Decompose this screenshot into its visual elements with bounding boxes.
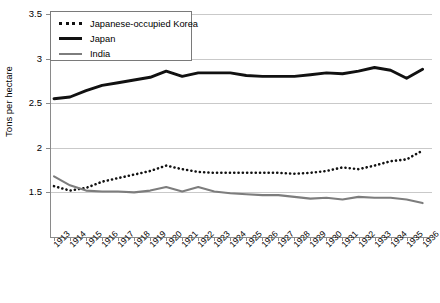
thick-black-line-swatch	[58, 33, 83, 44]
legend-label-japan: Japan	[90, 34, 115, 44]
series-line	[54, 151, 423, 191]
legend-item-japan: Japan	[58, 32, 191, 45]
line-chart: 1.522.533.5 Tons per hectare 19131914191…	[0, 0, 440, 303]
dotted-line-swatch	[58, 18, 83, 29]
chart-legend: Japanese-occupied Korea Japan India	[50, 11, 192, 61]
legend-item-korea: Japanese-occupied Korea	[58, 17, 191, 30]
legend-item-india: India	[58, 47, 191, 60]
gray-line-swatch	[58, 48, 83, 59]
legend-label-korea: Japanese-occupied Korea	[90, 19, 198, 29]
series-line	[54, 68, 423, 99]
legend-label-india: India	[90, 49, 110, 59]
series-line	[54, 176, 423, 203]
